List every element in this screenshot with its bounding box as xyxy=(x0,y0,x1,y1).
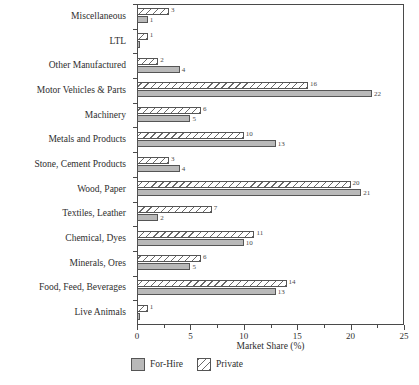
bar-value-label-private: 7 xyxy=(214,205,218,212)
category-label: Machinery xyxy=(85,110,126,121)
y-axis-tick xyxy=(133,78,137,79)
x-axis-tick-label: 10 xyxy=(239,331,248,341)
category-label: Food, Feed, Beverages xyxy=(39,282,126,293)
bar-value-label-private: 14 xyxy=(289,279,296,286)
bar-value-label-for-hire: 13 xyxy=(278,141,285,148)
legend-swatch-private xyxy=(197,358,211,371)
bar-group: 1 xyxy=(137,33,404,49)
bar-value-label-for-hire: 2 xyxy=(160,215,164,222)
category-label: Minerals, Ores xyxy=(70,258,126,269)
bar-private xyxy=(137,280,287,287)
y-axis-tick xyxy=(133,276,137,277)
bar-private xyxy=(137,33,148,40)
bar-for-hire xyxy=(137,263,190,270)
bar-private xyxy=(137,132,244,139)
bar-value-label-for-hire: 4 xyxy=(182,67,186,74)
market-share-bar-chart: MiscellaneousLTLOther ManufacturedMotor … xyxy=(0,0,419,385)
bar-private xyxy=(137,206,212,213)
y-axis-tick xyxy=(133,251,137,252)
x-axis-tick-major xyxy=(351,325,352,330)
bar-group: 1013 xyxy=(137,132,404,148)
bar-value-label-for-hire: 5 xyxy=(192,264,196,271)
bar-for-hire xyxy=(137,41,140,48)
bar-value-label-private: 20 xyxy=(353,180,360,187)
category-label: LTL xyxy=(109,36,126,47)
x-axis-tick-major xyxy=(244,325,245,330)
bar-for-hire xyxy=(137,140,276,147)
y-axis-tick xyxy=(133,152,137,153)
bar-for-hire xyxy=(137,239,244,246)
x-axis-tick-label: 25 xyxy=(400,331,409,341)
bar-for-hire xyxy=(137,313,140,320)
bar-group: 2021 xyxy=(137,181,404,197)
bar-value-label-for-hire: 13 xyxy=(278,289,285,296)
y-axis-tick xyxy=(133,300,137,301)
bar-for-hire xyxy=(137,90,372,97)
category-label: Textiles, Leather xyxy=(62,208,126,219)
bar-private xyxy=(137,157,169,164)
bar-private xyxy=(137,255,201,262)
bar-for-hire xyxy=(137,189,361,196)
category-label: Chemical, Dyes xyxy=(65,233,126,244)
bar-value-label-private: 3 xyxy=(171,156,175,163)
bar-value-label-private: 1 xyxy=(150,32,154,39)
y-axis-tick xyxy=(133,53,137,54)
bar-group: 1 xyxy=(137,305,404,321)
bar-for-hire xyxy=(137,115,190,122)
x-axis-tick-minor xyxy=(271,325,272,328)
bar-for-hire xyxy=(137,288,276,295)
bar-group: 1110 xyxy=(137,231,404,247)
x-axis-tick-label: 15 xyxy=(293,331,302,341)
plot-bars-layer: 3112416226510133420217211106514131 xyxy=(137,4,404,325)
bar-group: 31 xyxy=(137,8,404,24)
y-axis-tick xyxy=(133,4,137,5)
legend-swatch-forhire xyxy=(131,358,145,371)
bar-group: 65 xyxy=(137,255,404,271)
x-axis-tick-label: 5 xyxy=(188,331,193,341)
bar-value-label-private: 10 xyxy=(246,131,253,138)
bar-private xyxy=(137,231,254,238)
bar-value-label-private: 6 xyxy=(203,106,207,113)
bar-value-label-private: 16 xyxy=(310,81,317,88)
y-axis-tick xyxy=(133,29,137,30)
bar-private xyxy=(137,58,158,65)
category-label: Motor Vehicles & Parts xyxy=(37,85,126,96)
bar-value-label-for-hire: 1 xyxy=(150,17,154,24)
bar-group: 1622 xyxy=(137,82,404,98)
category-label: Live Animals xyxy=(75,307,126,318)
x-axis-tick-minor xyxy=(324,325,325,328)
bar-value-label-private: 11 xyxy=(256,230,263,237)
bar-for-hire xyxy=(137,16,148,23)
category-label: Stone, Cement Products xyxy=(34,159,126,170)
category-axis-labels: MiscellaneousLTLOther ManufacturedMotor … xyxy=(0,4,133,325)
bar-for-hire xyxy=(137,165,180,172)
x-axis-tick-major xyxy=(190,325,191,330)
bar-value-label-for-hire: 22 xyxy=(374,91,381,98)
bar-group: 65 xyxy=(137,107,404,123)
x-axis-tick-label: 0 xyxy=(135,331,140,341)
x-axis-title: Market Share (%) xyxy=(137,341,404,352)
bar-private xyxy=(137,305,148,312)
bar-for-hire xyxy=(137,66,180,73)
x-axis-tick-minor xyxy=(377,325,378,328)
category-label: Other Manufactured xyxy=(49,60,126,71)
x-axis-tick-minor xyxy=(217,325,218,328)
y-axis-tick xyxy=(133,177,137,178)
y-axis-tick xyxy=(133,226,137,227)
legend-label: Private xyxy=(216,359,243,370)
legend-label: For-Hire xyxy=(150,359,183,370)
bar-value-label-for-hire: 10 xyxy=(246,240,253,247)
bar-private xyxy=(137,181,351,188)
x-axis-tick-major xyxy=(404,325,405,330)
bar-private xyxy=(137,82,308,89)
legend-item: For-Hire xyxy=(131,358,183,371)
bar-group: 24 xyxy=(137,58,404,74)
x-axis-tick-minor xyxy=(164,325,165,328)
y-axis-tick xyxy=(133,202,137,203)
bar-value-label-private: 3 xyxy=(171,7,175,14)
bar-value-label-private: 6 xyxy=(203,254,207,261)
bar-value-label-for-hire: 21 xyxy=(363,190,370,197)
x-axis-tick-major xyxy=(297,325,298,330)
y-axis-tick xyxy=(133,103,137,104)
bar-for-hire xyxy=(137,214,158,221)
